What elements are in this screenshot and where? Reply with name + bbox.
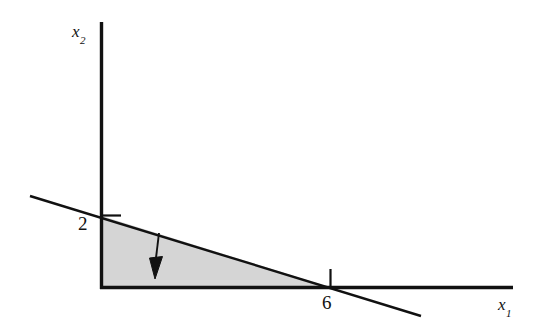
x-axis-label-subscript: 1 bbox=[506, 307, 512, 319]
plot-canvas bbox=[0, 0, 541, 327]
y-axis-label: x2 bbox=[72, 23, 85, 43]
linear-programming-figure: x2 x1 2 6 bbox=[0, 0, 541, 327]
x-intercept-tick-label: 6 bbox=[322, 293, 332, 312]
x-axis-label-base: x bbox=[498, 295, 506, 314]
constraint-line bbox=[30, 196, 421, 316]
x-axis-label: x1 bbox=[498, 296, 511, 316]
y-axis-label-subscript: 2 bbox=[80, 34, 86, 46]
y-axis-label-base: x bbox=[72, 22, 80, 41]
y-intercept-tick-label: 2 bbox=[78, 214, 88, 233]
